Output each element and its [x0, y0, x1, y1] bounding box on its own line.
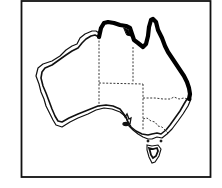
australia-distribution-map	[0, 0, 222, 188]
tasmania	[147, 140, 162, 163]
bass-strait-island-east	[160, 140, 162, 142]
bass-strait-island-west	[147, 140, 149, 142]
border-nt-sa	[99, 83, 143, 84]
tasmania-inner	[149, 148, 158, 158]
map-frame-border	[22, 1, 211, 177]
australia-mainland	[36, 19, 191, 139]
kangaroo-island	[123, 123, 129, 126]
distribution-band-north-east	[99, 19, 190, 99]
border-qld-nsw	[143, 97, 188, 99]
